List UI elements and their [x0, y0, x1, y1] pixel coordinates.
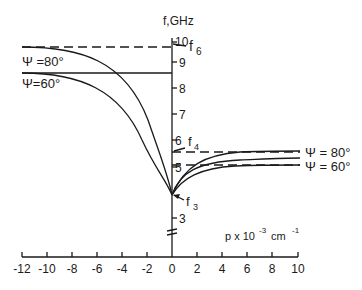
svg-text:cm: cm: [271, 230, 286, 242]
svg-text:4: 4: [194, 142, 199, 152]
f4-label: f 4: [188, 134, 199, 152]
svg-text:3: 3: [193, 202, 198, 212]
svg-text:-1: -1: [292, 226, 300, 235]
svg-text:10: 10: [291, 262, 305, 276]
svg-text:2: 2: [194, 262, 201, 276]
y-tick-label: 3: [179, 212, 186, 226]
svg-text:-10: -10: [38, 262, 56, 276]
svg-text:f: f: [189, 38, 193, 54]
svg-text:0: 0: [169, 262, 176, 276]
svg-text:f: f: [186, 194, 190, 209]
svg-text:-8: -8: [67, 262, 78, 276]
curve-psi80-right: [172, 151, 300, 195]
svg-text:f: f: [188, 134, 192, 149]
curve-psi60-right: [172, 165, 300, 195]
svg-text:p x 10: p x 10: [225, 230, 255, 242]
y-axis-title: f,GHz: [163, 14, 194, 28]
y-tick-label: 5: [175, 161, 182, 175]
dispersion-chart: 10 9 8 7 6 5 3 -12 -10 -8 -6 -4 -2 0 2 4…: [0, 0, 362, 290]
svg-text:4: 4: [219, 262, 226, 276]
psi80-right-label: Ψ = 80°: [305, 145, 350, 160]
psi60-right-label: Ψ = 60°: [305, 159, 350, 174]
y-tick-label: 6: [175, 134, 182, 148]
svg-text:-2: -2: [142, 262, 153, 276]
svg-text:-6: -6: [92, 262, 103, 276]
svg-text:6: 6: [244, 262, 251, 276]
svg-text:-4: -4: [117, 262, 128, 276]
y-tick-label: 9: [179, 56, 186, 70]
svg-text:8: 8: [269, 262, 276, 276]
svg-text:-3: -3: [259, 226, 267, 235]
psi60-left-label: Ψ=60°: [22, 76, 60, 91]
f3-label: f 3: [186, 194, 198, 212]
f3-arrowhead: [173, 194, 180, 199]
curve-psi60-left: [22, 73, 172, 195]
y-tick-label: 8: [179, 82, 186, 96]
f6-label: f 6: [189, 38, 202, 57]
svg-text:-12: -12: [13, 262, 31, 276]
psi80-left-label: Ψ =80°: [22, 54, 64, 69]
curve-psi80-left: [22, 47, 172, 195]
y-tick-label: 10: [175, 35, 189, 49]
x-ticks: [22, 252, 298, 257]
f4-arrow: [174, 148, 185, 151]
x-tick-labels: -12 -10 -8 -6 -4 -2 0 2 4 6 8 10: [13, 262, 305, 276]
svg-text:6: 6: [196, 46, 202, 57]
y-tick-label: 7: [179, 108, 186, 122]
x-axis-title: p x 10 -3 cm -1: [225, 226, 300, 242]
